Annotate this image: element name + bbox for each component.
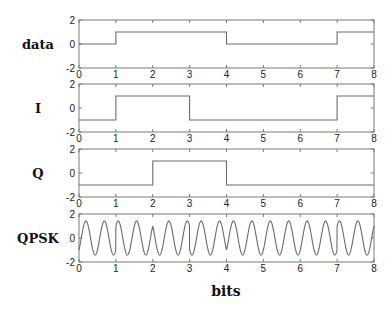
- x-tick-label: 2: [150, 133, 156, 144]
- y-tick-label: 2: [69, 209, 75, 220]
- x-tick-label: 1: [113, 263, 119, 274]
- qpsk-figure: data01234567820-2I01234567820-2Q01234567…: [0, 0, 392, 309]
- x-tick-label: 0: [76, 198, 82, 209]
- y-tick-label: 0: [69, 103, 75, 114]
- x-tick-label: 8: [371, 198, 377, 209]
- x-tick-label: 0: [76, 133, 82, 144]
- subplot-label: I: [35, 101, 41, 116]
- x-tick-label: 4: [224, 198, 230, 209]
- x-tick-label: 2: [150, 263, 156, 274]
- x-tick-label: 0: [76, 69, 82, 80]
- x-tick-label: 3: [187, 198, 193, 209]
- y-tick-label: -2: [66, 257, 75, 268]
- signal-trace: [79, 96, 374, 120]
- x-tick-label: 6: [297, 133, 303, 144]
- subplot-label: QPSK: [17, 231, 59, 246]
- axes-frame: [79, 84, 374, 132]
- x-tick-label: 4: [224, 263, 230, 274]
- signal-trace: [79, 161, 374, 185]
- y-tick-label: 2: [69, 15, 75, 26]
- y-tick-label: 2: [69, 79, 75, 90]
- y-tick-label: 0: [69, 168, 75, 179]
- y-tick-label: -2: [66, 127, 75, 138]
- y-tick-label: 0: [69, 233, 75, 244]
- x-tick-label: 3: [187, 263, 193, 274]
- x-tick-label: 0: [76, 263, 82, 274]
- y-tick-label: 0: [69, 39, 75, 50]
- subplot-label: Q: [32, 166, 43, 181]
- x-tick-label: 5: [261, 263, 267, 274]
- signal-trace: [79, 32, 374, 44]
- x-tick-label: 7: [334, 69, 340, 80]
- y-tick-label: 2: [69, 144, 75, 155]
- x-tick-label: 3: [187, 133, 193, 144]
- signal-trace: [79, 221, 374, 255]
- x-tick-label: 5: [261, 198, 267, 209]
- x-tick-label: 8: [371, 133, 377, 144]
- x-tick-label: 8: [371, 69, 377, 80]
- subplot-data: data01234567820-2: [22, 15, 377, 81]
- x-tick-label: 6: [297, 263, 303, 274]
- x-tick-label: 1: [113, 69, 119, 80]
- x-tick-label: 4: [224, 133, 230, 144]
- x-tick-label: 3: [187, 69, 193, 80]
- y-tick-label: -2: [66, 63, 75, 74]
- x-tick-label: 5: [261, 133, 267, 144]
- subplot-q: Q01234567820-2: [32, 144, 377, 210]
- subplot-qpsk: QPSK01234567820-2: [17, 209, 377, 275]
- x-tick-label: 7: [334, 198, 340, 209]
- x-axis-label: bits: [211, 283, 241, 299]
- x-tick-label: 4: [224, 69, 230, 80]
- subplot-stack: data01234567820-2I01234567820-2Q01234567…: [17, 15, 377, 275]
- subplot-i: I01234567820-2: [35, 79, 377, 145]
- x-tick-label: 6: [297, 198, 303, 209]
- y-tick-label: -2: [66, 192, 75, 203]
- x-tick-label: 2: [150, 69, 156, 80]
- x-tick-label: 7: [334, 263, 340, 274]
- x-tick-label: 2: [150, 198, 156, 209]
- x-tick-label: 1: [113, 133, 119, 144]
- x-tick-label: 5: [261, 69, 267, 80]
- x-tick-label: 7: [334, 133, 340, 144]
- x-tick-label: 8: [371, 263, 377, 274]
- x-tick-label: 6: [297, 69, 303, 80]
- subplot-label: data: [22, 37, 55, 52]
- x-tick-label: 1: [113, 198, 119, 209]
